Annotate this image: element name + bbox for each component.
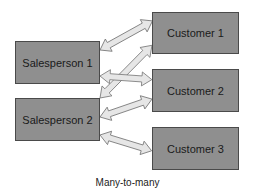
customer-2-label: Customer 2 <box>167 85 224 97</box>
customer-1-box: Customer 1 <box>152 12 239 54</box>
diagram-caption: Many-to-many <box>0 177 255 188</box>
customer-2-box: Customer 2 <box>152 69 239 112</box>
salesperson-2-box: Salesperson 2 <box>15 98 100 141</box>
customer-1-label: Customer 1 <box>167 27 224 39</box>
customer-3-label: Customer 3 <box>167 143 224 155</box>
customer-3-box: Customer 3 <box>152 127 239 170</box>
salesperson-2-label: Salesperson 2 <box>22 114 92 126</box>
salesperson-1-label: Salesperson 1 <box>22 57 92 69</box>
arrow-sp2-c3 <box>98 128 154 157</box>
salesperson-1-box: Salesperson 1 <box>15 41 100 84</box>
